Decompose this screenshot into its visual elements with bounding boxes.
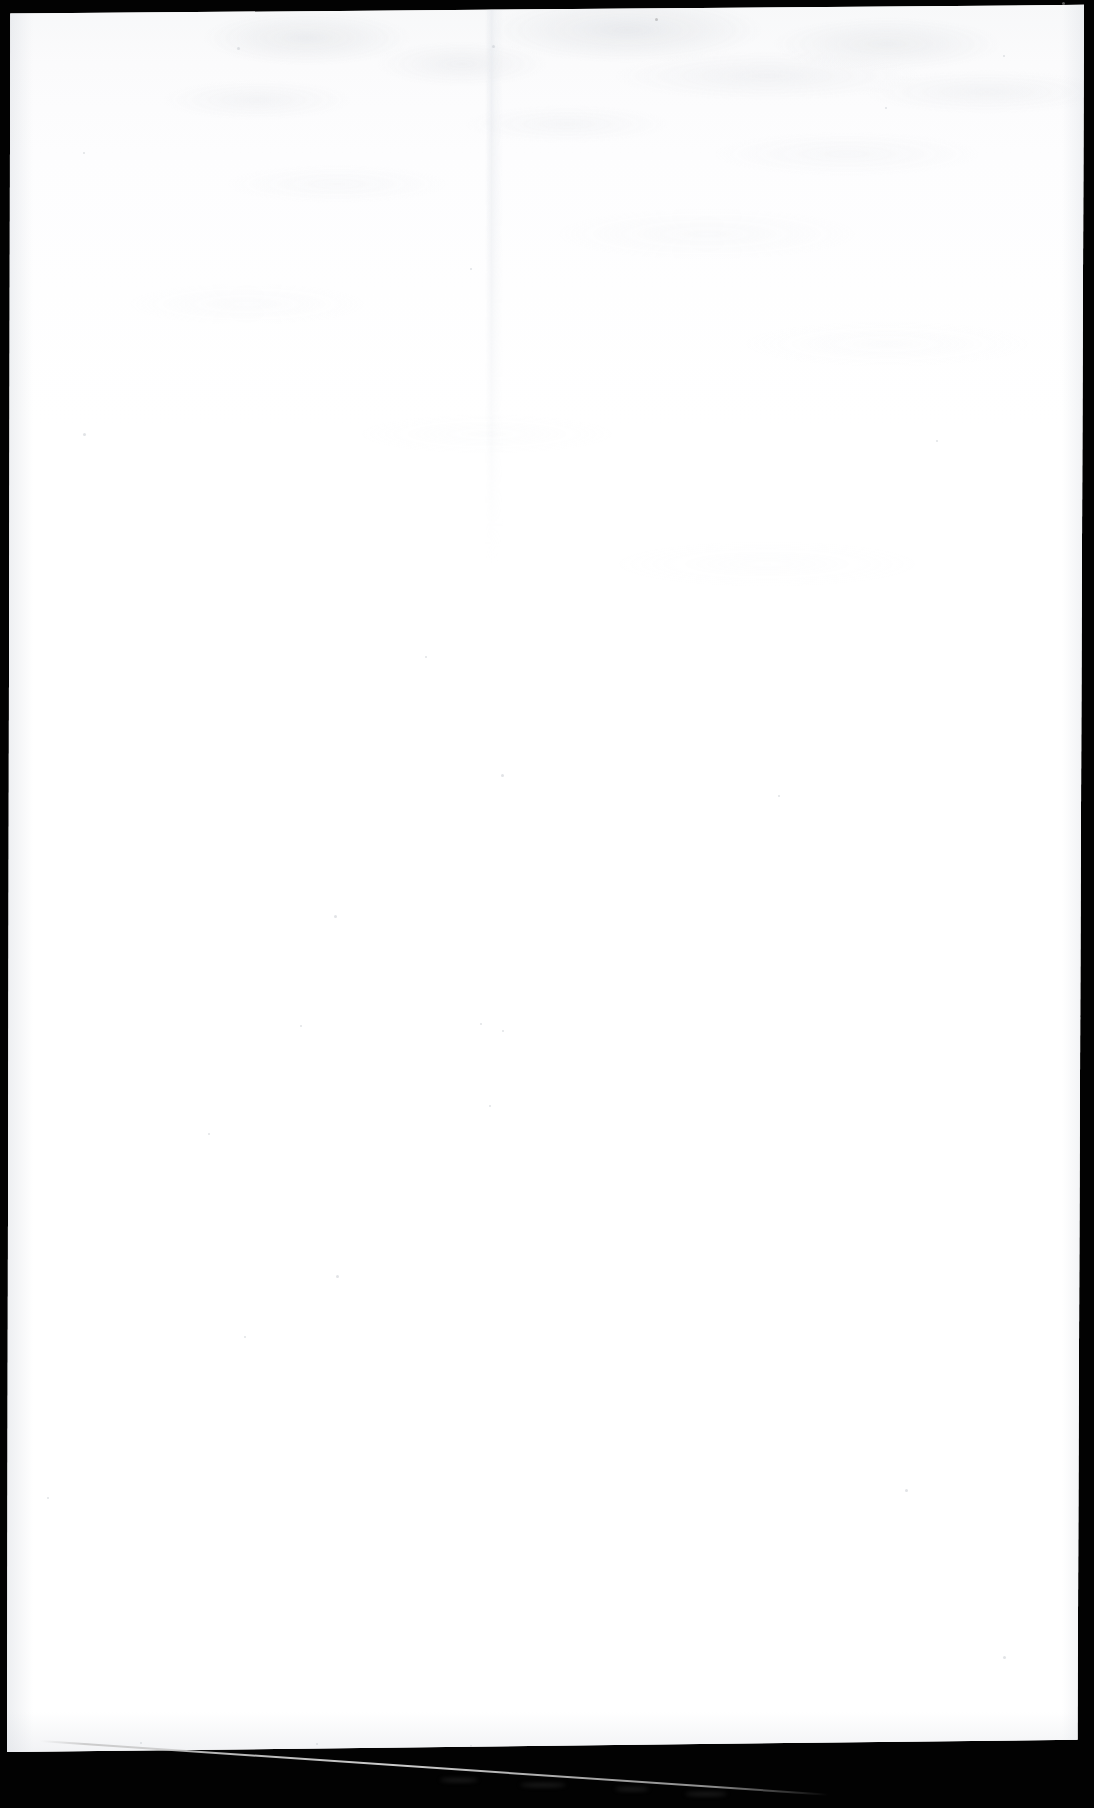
scanned-page-canvas: blank [0,0,1094,1808]
edge-dust-dot [1062,2,1065,5]
bleed-through-mottling [7,4,1084,724]
dust-speck [334,915,337,918]
dust-speck [237,47,240,50]
dust-speck [244,1336,246,1338]
dust-speck [47,1497,49,1499]
scanner-seam-artifact [485,4,503,564]
dust-speck [502,1030,504,1032]
edge-dust-dot [655,18,658,21]
page-sheet [7,4,1084,1752]
dust-speck [480,1023,482,1025]
dust-speck [83,433,86,436]
dust-speck [489,1105,491,1107]
dust-speck [1003,1656,1006,1659]
dust-speck [1003,55,1005,57]
dust-speck [905,1489,908,1492]
dust-speck [83,152,85,154]
dust-speck [208,1133,210,1135]
dust-speck [470,268,472,270]
dust-speck [885,107,887,109]
dust-speck [140,1742,142,1744]
dust-speck [300,1025,302,1027]
dust-speck [778,795,780,797]
dust-speck [425,656,427,658]
dust-speck [316,1743,318,1745]
dust-speck [501,774,504,777]
dust-speck [492,45,495,48]
dust-speck [936,440,938,442]
dust-speck [336,1275,339,1278]
left-margin-shading [7,4,33,1752]
